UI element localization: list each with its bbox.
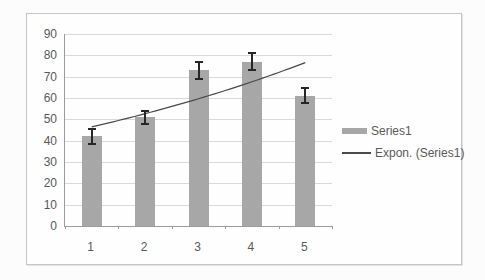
x-axis-tick <box>225 226 226 229</box>
x-axis-tick-label: 1 <box>76 240 106 254</box>
y-axis-tick-label: 40 <box>29 134 57 148</box>
error-bar-cap <box>88 128 96 130</box>
error-bar-cap <box>195 78 203 80</box>
error-bar-cap <box>141 110 149 112</box>
error-bar-cap <box>88 143 96 145</box>
legend-item-series1: Series1 <box>342 124 464 138</box>
x-axis-tick <box>172 226 173 229</box>
x-axis-tick <box>118 226 119 229</box>
error-bar-cap <box>301 102 309 104</box>
trendline-swatch-icon <box>342 152 371 154</box>
error-bar-cap <box>301 87 309 89</box>
y-axis-tick-label: 90 <box>29 27 57 41</box>
error-bar <box>198 62 200 79</box>
legend-item-trendline: Expon. (Series1) <box>342 146 464 160</box>
y-axis-tick-label: 80 <box>29 48 57 62</box>
y-axis-tick-label: 60 <box>29 91 57 105</box>
y-axis-tick-label: 50 <box>29 112 57 126</box>
y-axis-tick-label: 10 <box>29 198 57 212</box>
y-axis-labels: 0102030405060708090 <box>29 34 57 226</box>
x-axis-tick-label: 2 <box>129 240 159 254</box>
y-axis-tick-label: 20 <box>29 176 57 190</box>
x-axis-tick-label: 4 <box>236 240 266 254</box>
x-axis-tick-label: 5 <box>289 240 319 254</box>
plot-area <box>64 34 332 227</box>
y-axis-tick-label: 0 <box>29 219 57 233</box>
error-bar-cap <box>248 69 256 71</box>
legend-label-series1: Series1 <box>371 124 412 138</box>
x-axis-tick <box>279 226 280 229</box>
error-bar <box>304 88 306 103</box>
y-axis-tick-label: 70 <box>29 70 57 84</box>
x-axis-tick <box>65 226 66 229</box>
x-axis-tick <box>332 226 333 229</box>
error-bar <box>251 53 253 70</box>
error-bar <box>91 129 93 144</box>
error-bar-cap <box>195 61 203 63</box>
x-axis-labels: 12345 <box>64 240 331 254</box>
error-bar-cap <box>141 123 149 125</box>
x-axis-tick-label: 3 <box>183 240 213 254</box>
chart-canvas: 0102030405060708090 12345 Series1 Expon.… <box>0 0 485 280</box>
chart-frame: 0102030405060708090 12345 Series1 Expon.… <box>26 13 462 265</box>
error-bar-cap <box>248 52 256 54</box>
legend-label-trendline: Expon. (Series1) <box>375 146 464 160</box>
y-axis-tick-label: 30 <box>29 155 57 169</box>
bar-swatch-icon <box>342 128 367 134</box>
legend: Series1 Expon. (Series1) <box>342 124 464 168</box>
